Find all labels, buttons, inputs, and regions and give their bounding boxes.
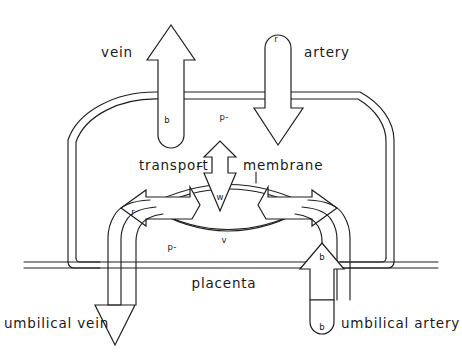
marker-maternal-vein-b: b [164,115,170,125]
label-umbilical-artery: umbilical artery [341,315,460,331]
placenta-boundary-line [24,262,438,268]
label-vein: vein [101,44,133,60]
placental-circulation-figure: b r p- w v [0,0,462,356]
diagram-canvas: b r p- w v [0,0,462,356]
maternal-vein-arrow [147,25,195,148]
marker-umbilical-artery-b: b [319,322,325,332]
label-artery: artery [304,44,350,60]
marker-fetal-r: r [131,207,135,217]
umbilical-vein-inner-wall [136,214,163,305]
marker-fetal-p: p- [168,242,177,252]
label-umbilical-vein: umbilical vein [4,315,109,331]
marker-fetal-b: b [319,252,325,262]
marker-maternal-p: p- [220,112,229,122]
marker-maternal-artery-r: r [274,34,278,44]
marker-membrane-w: w [216,192,223,202]
marker-lens-v: v [221,235,226,245]
label-membrane: membrane [243,157,323,173]
umbilical-artery-tube [295,200,350,334]
maternal-artery-arrow [254,35,303,145]
lens-exchange-arrow-right [258,187,337,226]
label-placenta: placenta [192,275,257,291]
label-transport-dash: – [196,157,203,173]
